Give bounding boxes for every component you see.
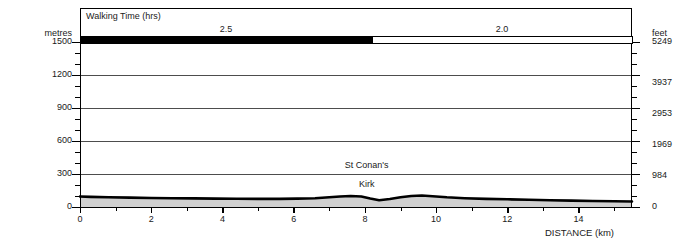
y-axis-right-tick-label: 1969: [652, 139, 672, 149]
y-axis-right-tick-label: 984: [652, 170, 667, 180]
walking-time-segment-label: 2.5: [206, 24, 246, 34]
x-axis-tick-label: 14: [567, 214, 591, 224]
x-axis-tick-label: 6: [282, 214, 306, 224]
profile-area-group: [80, 196, 632, 207]
x-axis-tick-label: 2: [139, 214, 163, 224]
y-axis-right-tick-label: 2953: [652, 108, 672, 118]
elevation-profile-chart: metres feet DISTANCE (km) Walking Time (…: [0, 0, 680, 246]
walking-time-bar-group: [80, 9, 632, 44]
y-axis-left-tick-label: 0: [34, 201, 72, 211]
poi-label-st-conans-kirk-line1: St Conan's: [322, 160, 412, 170]
walking-time-title: Walking Time (hrs): [86, 11, 161, 21]
x-axis-title: DISTANCE (km): [545, 227, 614, 238]
y-axis-right-tick-label: 3937: [652, 77, 672, 87]
walking-time-segment-2.5: [80, 36, 372, 43]
x-axis-tick-label: 8: [353, 214, 377, 224]
x-axis-tick-label: 4: [210, 214, 234, 224]
chart-canvas: [0, 0, 680, 246]
walking-time-segment-label: 2.0: [482, 24, 522, 34]
y-axis-left-tick-label: 600: [34, 135, 72, 145]
y-axis-left-tick-label: 1500: [34, 36, 72, 46]
walking-time-segment-2.0: [372, 36, 632, 43]
y-axis-left-tick-label: 300: [34, 168, 72, 178]
x-axis-tick-label: 12: [495, 214, 519, 224]
y-axis-left-tick-label: 1200: [34, 69, 72, 79]
y-axis-right-tick-label: 5249: [652, 36, 672, 46]
x-axis-tick-label: 0: [68, 214, 92, 224]
y-axis-right-tick-label: 0: [652, 201, 657, 211]
y-axis-left-tick-label: 900: [34, 102, 72, 112]
poi-label-st-conans-kirk-line2: Kirk: [322, 179, 412, 189]
x-axis-tick-label: 10: [424, 214, 448, 224]
